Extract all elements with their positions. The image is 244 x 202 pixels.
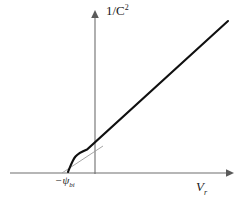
measured-curve bbox=[68, 21, 228, 172]
x-axis-label-subscript: r bbox=[204, 188, 207, 197]
y-axis-arrowhead bbox=[91, 10, 99, 18]
x-axis-arrowhead bbox=[226, 169, 234, 177]
plot-area bbox=[0, 0, 244, 202]
x-axis-label: Vr bbox=[196, 180, 207, 193]
y-axis-label-text: 1/C bbox=[106, 3, 125, 18]
y-axis-label: 1/C2 bbox=[106, 4, 129, 17]
intercept-label: −ψbi bbox=[55, 175, 75, 186]
figure-canvas: 1/C2 Vr −ψbi bbox=[0, 0, 244, 202]
y-axis-label-exponent: 2 bbox=[125, 3, 129, 12]
intercept-label-symbol: −ψ bbox=[55, 174, 69, 186]
intercept-label-subscript: bi bbox=[69, 181, 74, 189]
x-axis-label-text: V bbox=[196, 179, 204, 194]
